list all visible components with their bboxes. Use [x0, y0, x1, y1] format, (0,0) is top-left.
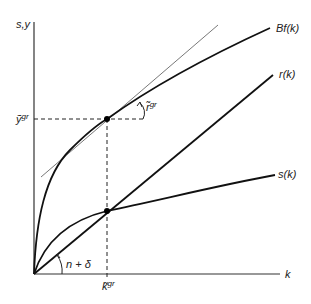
k-golden-label: k̃gr	[102, 279, 115, 292]
s-curve-label: s(k)	[278, 168, 297, 180]
x-axis-label: k	[285, 268, 291, 280]
r-curve-label: r(k)	[279, 68, 296, 80]
tangent-arrow-icon	[137, 102, 142, 107]
golden-output-point	[104, 116, 110, 122]
golden-rule-diagram: s,y k Bf(k) r(k) s(k) ỹgr k̃gr r̃gr n + …	[0, 0, 311, 304]
output-curve-bf	[34, 28, 270, 274]
y-golden-label: ỹgr	[15, 112, 29, 125]
tangent-line	[41, 25, 218, 177]
golden-saving-point	[104, 208, 110, 214]
tangent-angle-arc-icon	[140, 103, 145, 119]
bf-curve-label: Bf(k)	[276, 22, 300, 34]
tangent-slope-label: r̃gr	[146, 100, 158, 113]
ray-slope-label: n + δ	[66, 258, 92, 270]
y-axis-label: s,y	[16, 18, 32, 30]
